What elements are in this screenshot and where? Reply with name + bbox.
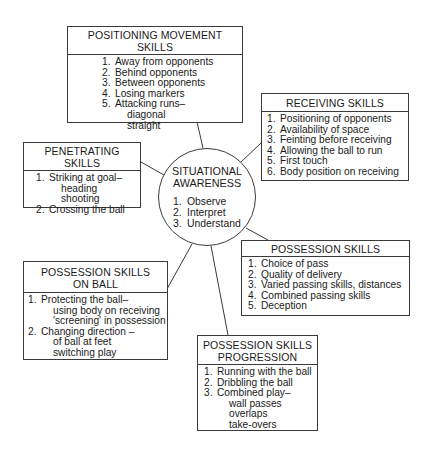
box-positioning-movement-skills: POSITIONING MOVEMENT SKILLS 1.Away from … xyxy=(67,26,243,123)
title-line: POSSESSION SKILLS xyxy=(26,266,165,278)
list-item: 1.Striking at goal– xyxy=(36,173,136,184)
item-number: 1. xyxy=(248,259,261,270)
box-list: 1.Running with the ball2.Dribbling the b… xyxy=(198,365,317,434)
item-number: 1. xyxy=(204,367,217,378)
item-number: 1. xyxy=(102,57,115,68)
center-list-item: 2.Interpret xyxy=(173,208,241,219)
list-item: 1.Protecting the ball– xyxy=(28,295,163,306)
item-number: 1. xyxy=(28,295,41,306)
item-text: Away from opponents xyxy=(115,57,213,68)
box-title: POSSESSION SKILLSPROGRESSION xyxy=(198,336,317,365)
box-title: RECEIVING SKILLS xyxy=(262,94,408,112)
box-list: 1.Protecting the ball–using body on rece… xyxy=(24,293,167,362)
box-title: POSSESSION SKILLSON BALL xyxy=(24,262,167,293)
item-number: 1. xyxy=(36,173,49,184)
item-text: Protecting the ball– xyxy=(41,295,128,306)
item-number: 2. xyxy=(36,205,49,216)
item-text: Choice of pass xyxy=(261,259,328,270)
sub-item: switching play xyxy=(28,348,163,359)
box-possession-skills-on-ball: POSSESSION SKILLSON BALL 1.Protecting th… xyxy=(23,261,168,360)
box-possession-skills-progression: POSSESSION SKILLSPROGRESSION 1.Running w… xyxy=(197,335,318,431)
list-item: 6.Body position on receiving xyxy=(267,167,404,178)
list-item: 5.Deception xyxy=(248,301,405,312)
center-title-line: AWARENESS xyxy=(159,178,255,190)
box-title: POSITIONING MOVEMENT SKILLS xyxy=(68,27,242,55)
item-text: Body position on receiving xyxy=(280,167,399,178)
center-title-line: SITUATIONAL xyxy=(159,166,255,178)
center-list: 1.Observe2.Interpret3.Understand xyxy=(173,197,241,229)
item-text: Positioning of opponents xyxy=(280,114,392,125)
item-text: Deception xyxy=(261,301,307,312)
item-number: 3. xyxy=(173,219,187,230)
list-item: 1.Choice of pass xyxy=(248,259,405,270)
sub-item: take-overs xyxy=(204,420,313,431)
connector-on-ball xyxy=(167,244,192,289)
list-item: 5.Attacking runs– xyxy=(102,99,238,110)
item-number: 2. xyxy=(28,327,41,338)
center-list-item: 3.Understand xyxy=(173,219,241,230)
item-number: 3. xyxy=(204,388,217,399)
item-text: Crossing the ball xyxy=(49,205,125,216)
list-item: 1.Away from opponents xyxy=(102,57,238,68)
box-title: POSSESSION SKILLS xyxy=(242,241,409,257)
item-number: 6. xyxy=(267,167,280,178)
box-title: PENETRATING SKILLS xyxy=(24,143,140,171)
title-line: POSITIONING MOVEMENT SKILLS xyxy=(70,29,240,53)
box-penetrating-skills: PENETRATING SKILLS 1.Striking at goal–he… xyxy=(23,142,141,208)
sub-item: straight xyxy=(102,121,238,132)
title-line: POSSESSION SKILLS xyxy=(244,243,407,255)
item-text: Understand xyxy=(187,219,241,230)
connector-progression xyxy=(211,246,228,335)
box-receiving-skills: RECEIVING SKILLS 1.Positioning of oppone… xyxy=(261,93,409,181)
box-list: 1.Choice of pass2.Quality of delivery3.V… xyxy=(242,257,409,315)
box-possession-skills: POSSESSION SKILLS 1.Choice of pass2.Qual… xyxy=(241,240,410,316)
box-list: 1.Away from opponents2.Behind opponents3… xyxy=(68,55,242,134)
item-number: 5. xyxy=(102,99,115,110)
sub-item: diagonal xyxy=(102,110,238,121)
list-item: 2.Crossing the ball xyxy=(36,205,136,216)
list-item: 1.Positioning of opponents xyxy=(267,114,404,125)
box-list: 1.Striking at goal–headingshooting2.Cros… xyxy=(24,171,140,218)
item-number: 5. xyxy=(248,301,261,312)
situational-awareness-circle: SITUATIONALAWARENESS 1.Observe2.Interpre… xyxy=(158,148,256,246)
item-text: Striking at goal– xyxy=(49,173,122,184)
title-line: PENETRATING SKILLS xyxy=(26,145,138,169)
connector-possession xyxy=(246,228,268,240)
title-line: POSSESSION SKILLS xyxy=(200,339,315,351)
title-line: PROGRESSION xyxy=(200,351,315,363)
item-number: 2. xyxy=(173,208,187,219)
list-item: 1.Running with the ball xyxy=(204,367,313,378)
title-line: RECEIVING SKILLS xyxy=(264,97,406,109)
item-text: Running with the ball xyxy=(217,367,312,378)
title-line: ON BALL xyxy=(26,278,165,290)
center-title: SITUATIONALAWARENESS xyxy=(159,166,255,189)
box-list: 1.Positioning of opponents2.Availability… xyxy=(262,112,408,181)
item-text: Interpret xyxy=(187,208,226,219)
item-number: 1. xyxy=(267,114,280,125)
connector-receiving xyxy=(240,143,261,163)
